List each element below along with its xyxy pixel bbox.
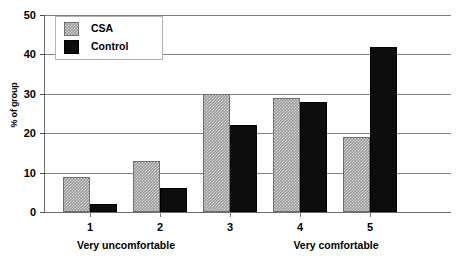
x-tick-label-4: 4	[285, 222, 315, 233]
bar-control-4	[300, 102, 327, 212]
y-axis-line	[44, 15, 45, 212]
csa-swatch-icon	[64, 22, 79, 36]
bar-control-2	[160, 188, 187, 212]
y-tick-label-0: 0	[12, 207, 36, 218]
bar-csa-4	[273, 98, 300, 212]
y-tick-mark-10	[40, 173, 45, 174]
control-swatch-icon	[64, 40, 79, 54]
x-tick-label-3: 3	[215, 222, 245, 233]
y-tick-label-10: 10	[12, 168, 36, 179]
y-tick-label-40: 40	[12, 49, 36, 60]
x-tick-mark-5	[370, 212, 371, 217]
y-tick-mark-0	[40, 212, 45, 213]
x-group-label-right: Very comfortable	[256, 240, 416, 251]
x-tick-label-1: 1	[75, 222, 105, 233]
x-tick-label-2: 2	[145, 222, 175, 233]
bar-csa-3	[203, 94, 230, 212]
bar-control-1	[90, 204, 117, 212]
legend-label-csa: CSA	[91, 23, 113, 34]
legend-label-control: Control	[91, 41, 128, 52]
bar-control-3	[230, 125, 257, 212]
bar-control-5	[370, 47, 397, 212]
x-tick-mark-4	[300, 212, 301, 217]
y-tick-mark-20	[40, 133, 45, 134]
bar-chart: % of group 01020304050 12345Very uncomfo…	[0, 0, 461, 269]
y-tick-mark-50	[40, 15, 45, 16]
x-group-label-left: Very uncomfortable	[46, 240, 206, 251]
y-tick-mark-30	[40, 94, 45, 95]
y-tick-mark-40	[40, 54, 45, 55]
x-tick-mark-3	[230, 212, 231, 217]
bar-csa-2	[133, 161, 160, 212]
bar-csa-1	[63, 177, 90, 212]
x-tick-mark-2	[160, 212, 161, 217]
x-tick-mark-1	[90, 212, 91, 217]
y-tick-label-30: 30	[12, 89, 36, 100]
x-tick-label-5: 5	[355, 222, 385, 233]
y-tick-label-50: 50	[12, 10, 36, 21]
gridline-0	[44, 212, 451, 213]
y-tick-label-20: 20	[12, 128, 36, 139]
bar-csa-5	[343, 137, 370, 212]
legend: CSA Control	[55, 16, 163, 60]
